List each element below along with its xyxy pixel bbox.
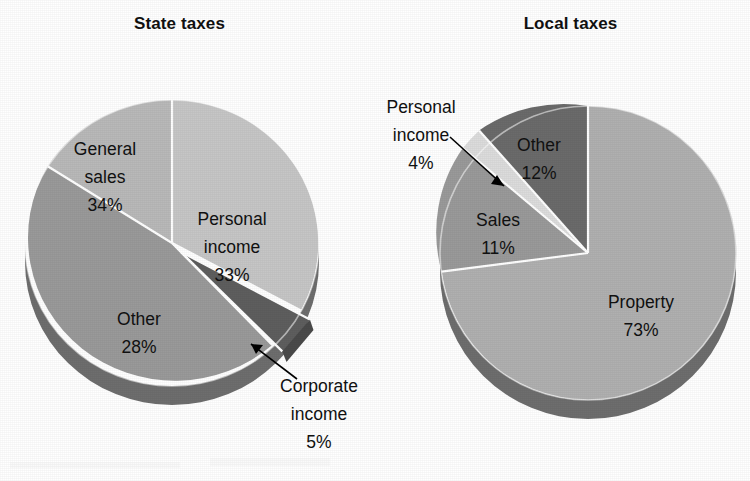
local-taxes-panel: Local taxes (375, 0, 750, 481)
label-corporate-income-line2: income (291, 404, 347, 424)
label-property-line1: Property (608, 292, 674, 312)
state-taxes-pie-svg: General sales 34% Personal income 33% Ot… (0, 0, 375, 481)
label-general-sales-pct: 34% (87, 195, 122, 215)
label-sales-pct: 11% (481, 238, 515, 258)
label-corporate-income-line1: Corporate (280, 376, 358, 396)
label-personal-income-pct: 33% (214, 265, 249, 285)
label-other-line1: Other (517, 135, 561, 155)
label-personal-income-line2: income (393, 125, 449, 145)
label-general-sales-line1: General (74, 139, 136, 159)
label-other-pct: 12% (521, 163, 556, 183)
label-personal-income-line1: Personal (386, 97, 455, 117)
label-personal-income-pct: 4% (408, 153, 433, 173)
label-other-pct: 28% (121, 337, 156, 357)
label-personal-income-line2: income (204, 237, 260, 257)
state-taxes-panel: State taxes (0, 0, 375, 481)
label-other-line1: Other (117, 309, 161, 329)
label-personal-income-line1: Personal (197, 209, 266, 229)
pie-chart-figure: State taxes (0, 0, 750, 481)
local-taxes-pie-svg: Property 73% Sales 11% Other 12% Persona… (375, 0, 750, 481)
label-general-sales-line2: sales (85, 167, 126, 187)
label-sales-line1: Sales (476, 210, 520, 230)
label-corporate-income-pct: 5% (306, 432, 331, 452)
label-property-pct: 73% (623, 320, 658, 340)
